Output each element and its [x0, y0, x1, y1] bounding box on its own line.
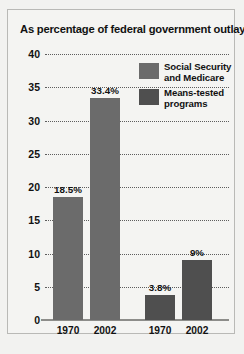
y-axis-tick-label: 35	[28, 81, 40, 93]
legend-item-means-tested-programs: Means-tested programs	[139, 88, 237, 109]
y-axis-tick-label: 25	[28, 148, 40, 160]
y-axis-tick-label: 30	[28, 115, 40, 127]
bar-value-label: 18.5%	[54, 184, 82, 195]
y-axis-tick-label: 15	[28, 214, 40, 226]
gridline	[45, 54, 229, 55]
gridline	[45, 154, 229, 155]
legend-item-label: Social Security and Medicare	[164, 62, 231, 83]
chart-panel: As percentage of federal government outl…	[7, 9, 235, 334]
bar-value-label: 9%	[190, 247, 204, 258]
legend-label-line1: Social Security	[164, 61, 231, 72]
bar: 18.5%1970	[53, 197, 83, 320]
gridline	[45, 121, 229, 122]
x-axis-tick-label: 1970	[57, 325, 80, 336]
bar-value-label: 3.8%	[149, 282, 171, 293]
y-axis-tick-label: 0	[34, 314, 40, 326]
legend-label-line1: Means-tested	[164, 87, 224, 98]
legend-item-label: Means-tested programs	[164, 88, 224, 109]
bar: 33.4%2002	[90, 98, 120, 320]
chart-legend: Social Security and Medicare Means-teste…	[139, 62, 237, 114]
x-axis-tick-label: 1970	[149, 325, 172, 336]
legend-swatch-icon	[139, 63, 159, 79]
legend-label-line2: and Medicare	[164, 72, 224, 83]
legend-item-social-security-medicare: Social Security and Medicare	[139, 62, 237, 83]
bar-value-label: 33.4%	[91, 85, 119, 96]
x-axis-tick-label: 2002	[94, 325, 117, 336]
legend-swatch-icon	[139, 89, 159, 105]
y-axis-tick-label: 20	[28, 181, 40, 193]
legend-label-line2: programs	[164, 98, 207, 109]
x-axis-tick-label: 2002	[186, 325, 209, 336]
chart-title: As percentage of federal government outl…	[20, 23, 230, 36]
y-axis-tick-label: 5	[34, 281, 40, 293]
bar: 9%2002	[182, 260, 212, 320]
y-axis-tick-label: 10	[28, 248, 40, 260]
y-axis-tick-label: 40	[28, 48, 40, 60]
chart-figure: As percentage of federal government outl…	[0, 0, 244, 354]
bar: 3.8%1970	[145, 295, 175, 320]
